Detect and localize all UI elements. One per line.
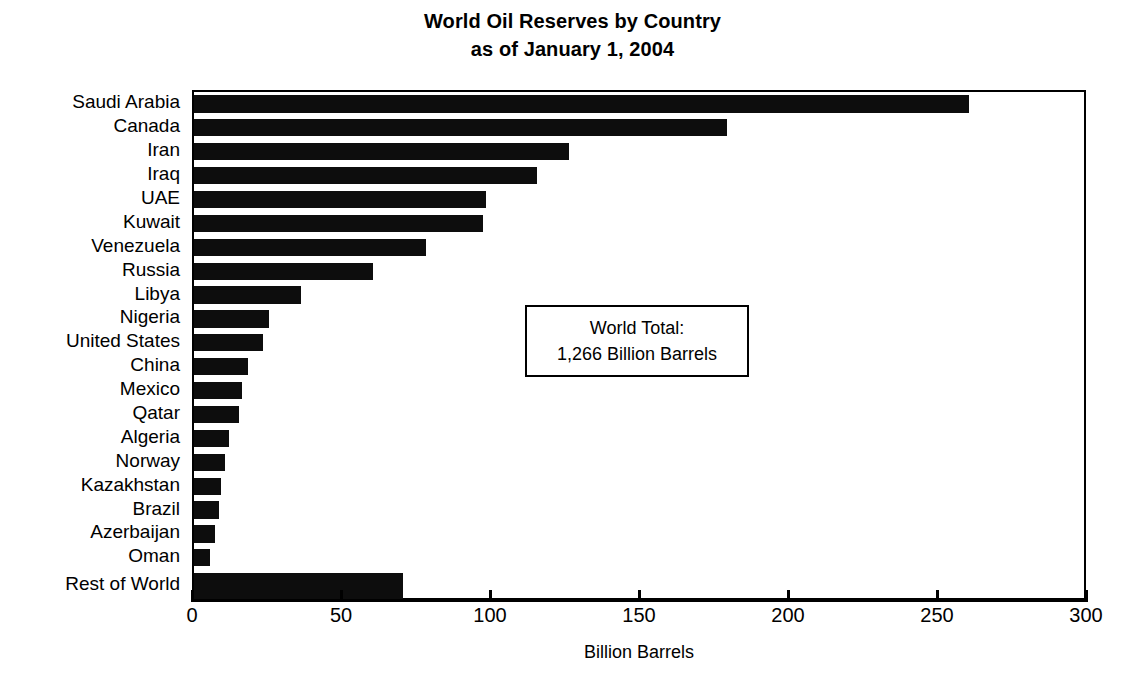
bar-row xyxy=(194,167,1084,184)
y-axis-labels: Saudi ArabiaCanadaIranIraqUAEKuwaitVenez… xyxy=(0,90,186,600)
bar xyxy=(194,310,269,327)
y-axis-label-kazakhstan: Kazakhstan xyxy=(81,475,180,494)
bar-row xyxy=(194,119,1084,136)
y-axis-label-kuwait: Kuwait xyxy=(123,212,180,231)
y-axis-label-iraq: Iraq xyxy=(147,164,180,183)
bar xyxy=(194,549,210,566)
tick-label: 150 xyxy=(622,605,655,625)
y-axis-label-nigeria: Nigeria xyxy=(120,307,180,326)
bar xyxy=(194,119,727,136)
bar-row xyxy=(194,215,1084,232)
bar xyxy=(194,239,426,256)
bar-row xyxy=(194,549,1084,566)
y-axis-label-azerbaijan: Azerbaijan xyxy=(90,522,180,541)
tick-label: 300 xyxy=(1069,605,1102,625)
tick-mark xyxy=(787,590,790,602)
bar xyxy=(194,430,229,447)
y-axis-label-russia: Russia xyxy=(122,260,180,279)
world-total-annotation: World Total: 1,266 Billion Barrels xyxy=(525,305,749,377)
page-title: World Oil Reserves by Country as of Janu… xyxy=(0,8,1145,63)
y-axis-label-venezuela: Venezuela xyxy=(91,236,180,255)
world-total-label: World Total: xyxy=(590,315,684,341)
y-axis-label-uae: UAE xyxy=(141,188,180,207)
world-total-value: 1,266 Billion Barrels xyxy=(557,341,717,367)
y-axis-label-libya: Libya xyxy=(135,284,180,303)
bar-row xyxy=(194,95,1084,112)
tick-mark xyxy=(638,590,641,602)
bar-row xyxy=(194,430,1084,447)
y-axis-label-china: China xyxy=(130,355,180,374)
x-axis-title: Billion Barrels xyxy=(192,643,1086,661)
tick-label: 100 xyxy=(473,605,506,625)
bar-row xyxy=(194,191,1084,208)
y-axis-label-qatar: Qatar xyxy=(132,403,180,422)
y-axis-label-mexico: Mexico xyxy=(120,379,180,398)
bar-row xyxy=(194,263,1084,280)
bar xyxy=(194,286,301,303)
tick-label: 50 xyxy=(330,605,352,625)
bar-row xyxy=(194,286,1084,303)
bar xyxy=(194,358,248,375)
y-axis-label-iran: Iran xyxy=(147,140,180,159)
bar-row xyxy=(194,406,1084,423)
chart-title-line-1: World Oil Reserves by Country xyxy=(0,8,1145,36)
y-axis-label-norway: Norway xyxy=(116,451,180,470)
bar xyxy=(194,454,225,471)
bar xyxy=(194,143,569,160)
tick-label: 250 xyxy=(920,605,953,625)
tick-mark xyxy=(340,590,343,602)
bar xyxy=(194,525,215,542)
y-axis-label-rest-of-world: Rest of World xyxy=(65,574,180,593)
bar xyxy=(194,382,242,399)
bar xyxy=(194,263,373,280)
x-axis-ticks: 050100150200250300 xyxy=(192,590,1086,634)
tick-mark xyxy=(489,590,492,602)
bar xyxy=(194,215,483,232)
bar-row xyxy=(194,239,1084,256)
bar-row xyxy=(194,525,1084,542)
bar-row xyxy=(194,501,1084,518)
bar xyxy=(194,406,239,423)
y-axis-label-oman: Oman xyxy=(128,546,180,565)
tick-mark xyxy=(191,590,194,602)
bar xyxy=(194,167,537,184)
tick-mark xyxy=(936,590,939,602)
bar xyxy=(194,478,221,495)
tick-mark xyxy=(1085,590,1088,602)
bar-row xyxy=(194,478,1084,495)
chart-figure: World Oil Reserves by Country as of Janu… xyxy=(0,0,1145,674)
tick-label: 0 xyxy=(186,605,197,625)
y-axis-label-united-states: United States xyxy=(66,331,180,350)
y-axis-label-canada: Canada xyxy=(113,116,180,135)
y-axis-label-brazil: Brazil xyxy=(132,499,180,518)
bar xyxy=(194,334,263,351)
y-axis-label-algeria: Algeria xyxy=(121,427,180,446)
bar-row xyxy=(194,382,1084,399)
bar-row xyxy=(194,454,1084,471)
bar-row xyxy=(194,143,1084,160)
chart-title-line-2: as of January 1, 2004 xyxy=(0,36,1145,64)
tick-label: 200 xyxy=(771,605,804,625)
bar xyxy=(194,191,486,208)
bar xyxy=(194,501,219,518)
y-axis-label-saudi-arabia: Saudi Arabia xyxy=(72,92,180,111)
bar xyxy=(194,95,969,112)
